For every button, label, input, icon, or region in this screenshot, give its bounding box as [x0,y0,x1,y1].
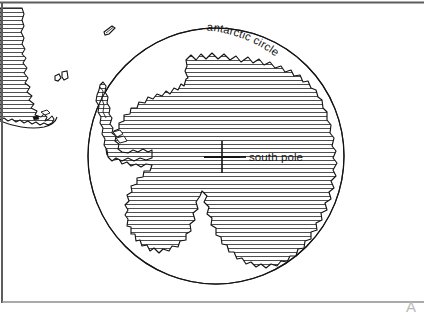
south-pole-label: south pole [249,151,303,163]
south-america-southern-tip [0,8,57,128]
falkland-island-east [62,71,68,80]
map-canvas: south pole antarctic circle A [0,0,424,314]
falkland-island-west [55,74,61,81]
falkland-islands [55,71,68,81]
small-island-north [104,26,115,35]
antarctica-map-figure: south pole antarctic circle A [0,0,424,314]
south-america-inlet-2 [33,116,39,120]
south-america-outline [0,8,54,125]
corner-partial-letter: A [406,298,416,314]
south-america-inlet-1 [41,110,50,115]
